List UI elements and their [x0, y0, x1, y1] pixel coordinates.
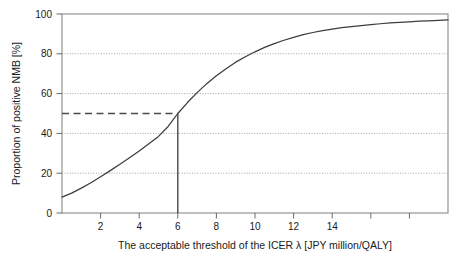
- y-tick-label-100: 100: [35, 9, 52, 20]
- y-tick-label-60: 60: [41, 88, 53, 99]
- x-axis-title: The acceptable threshold of the ICER λ […: [118, 239, 392, 251]
- ceac-chart: 0 20 40 60 80 100 2 4 6 8 10 12 1: [0, 0, 468, 260]
- x-tick-label-12: 12: [288, 221, 300, 232]
- x-axis-ticks: [101, 213, 410, 219]
- y-tick-label-0: 0: [46, 208, 52, 219]
- x-tick-label-10: 10: [249, 221, 261, 232]
- y-tick-label-80: 80: [41, 48, 53, 59]
- x-tick-label-6: 6: [175, 221, 181, 232]
- x-tick-label-14: 14: [327, 221, 339, 232]
- y-axis-title: Proportion of positive NMB [%]: [10, 42, 22, 185]
- y-axis-ticks: [57, 14, 63, 213]
- x-tick-label-2: 2: [98, 221, 104, 232]
- y-axis-tick-labels: 0 20 40 60 80 100: [35, 9, 52, 219]
- x-tick-label-4: 4: [136, 221, 142, 232]
- y-tick-label-40: 40: [41, 128, 53, 139]
- x-axis-tick-labels: 2 4 6 8 10 12 14: [98, 221, 338, 232]
- y-tick-label-20: 20: [41, 168, 53, 179]
- x-tick-label-8: 8: [214, 221, 220, 232]
- chart-figure: 0 20 40 60 80 100 2 4 6 8 10 12 1: [0, 0, 468, 260]
